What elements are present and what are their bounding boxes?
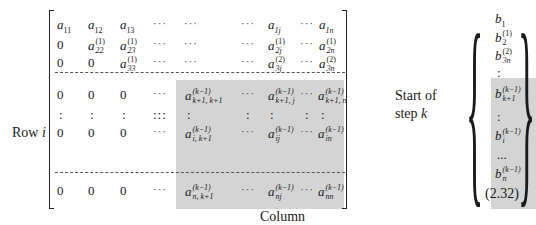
ddots: ::: xyxy=(153,108,167,121)
hdots: ··· xyxy=(241,183,255,196)
vector-entry: b(k−1)i xyxy=(495,128,521,146)
matrix-cell: 0 xyxy=(120,126,127,139)
start-of-text: Start of xyxy=(395,87,437,105)
matrix-cell: a(k−1)k+1, k+1 xyxy=(185,88,222,106)
hdots: ··· xyxy=(153,183,167,196)
hdots: ··· xyxy=(241,87,255,100)
matrix-cell: a(2)3j xyxy=(268,56,285,74)
hdots: ··· xyxy=(153,37,167,50)
matrix-cell: a(k−1)k+1, j xyxy=(268,88,295,106)
vdots: ... xyxy=(497,148,507,161)
row-i-label: Row i xyxy=(12,125,46,141)
matrix-cell: a(k−1)ij xyxy=(268,126,294,144)
matrix-cell: 0 xyxy=(120,184,127,197)
matrix-cell: a12 xyxy=(88,18,103,31)
matrix-cell: 0 xyxy=(57,56,64,69)
matrix-cell: a(k−1)nj xyxy=(268,184,294,202)
matrix-cell: a(k−1)nn xyxy=(318,184,344,202)
partition-line-step-k xyxy=(55,72,345,73)
equation-number: (2.32) xyxy=(485,186,519,202)
matrix-cell: 0 xyxy=(57,184,64,197)
vdots: : xyxy=(497,66,501,79)
hdots: ··· xyxy=(241,125,255,138)
hdots: ··· xyxy=(300,125,314,138)
matrix-cell: a1n xyxy=(319,18,334,31)
matrix-cell: a(k−1)n, k+1 xyxy=(185,184,213,202)
vector-entry: b(1)2 xyxy=(495,30,512,48)
vector-entry: b1 xyxy=(495,12,506,25)
matrix-cell: 0 xyxy=(120,88,127,101)
matrix-cell: a(1)2n xyxy=(319,38,336,56)
vector-entry: b(2)3n xyxy=(495,48,512,66)
matrix-cell: a(k−1)in xyxy=(318,126,344,144)
matrix-cell: a13 xyxy=(120,18,135,31)
vector-entry: b(k−1)k+1 xyxy=(495,86,521,104)
matrix-cell: a(1)23 xyxy=(120,38,137,56)
matrix-cell: a(k−1)k+1, n xyxy=(318,88,346,106)
vdots: : xyxy=(90,108,94,121)
hdots: ··· xyxy=(300,55,314,68)
matrix-cell: a1j xyxy=(268,18,281,31)
matrix-cell: 0 xyxy=(57,38,64,51)
hdots: ··· xyxy=(184,55,198,68)
hdots: ··· xyxy=(241,37,255,50)
matrix-cell: a(k−1)i, k+1 xyxy=(185,126,212,144)
step-k-text: step k xyxy=(395,105,437,123)
left-brace: { xyxy=(466,4,483,214)
matrix-cell: 0 xyxy=(88,56,95,69)
hdots: ··· xyxy=(241,55,255,68)
vector-entry: b(k−1)n xyxy=(495,166,521,184)
vdots: : xyxy=(497,110,501,123)
matrix-cell: 0 xyxy=(88,126,95,139)
vdots: : xyxy=(187,108,191,121)
matrix-cell: 0 xyxy=(88,184,95,197)
hdots: ··· xyxy=(241,17,255,30)
hdots: ··· xyxy=(153,17,167,30)
matrix-cell: a11 xyxy=(57,18,71,31)
hdots: ··· xyxy=(153,125,167,138)
matrix-cell: a(1)22 xyxy=(88,38,105,56)
hdots: ··· xyxy=(184,17,198,30)
vdots: : xyxy=(59,108,63,121)
matrix-cell: 0 xyxy=(88,88,95,101)
matrix-cell: 0 xyxy=(57,88,64,101)
vdots: : xyxy=(321,108,325,121)
vdots: : xyxy=(246,108,250,121)
column-label: Column xyxy=(260,209,305,225)
start-of-step-label: Start of step k xyxy=(395,87,437,123)
right-bracket xyxy=(342,10,347,209)
hdots: ··· xyxy=(300,183,314,196)
hdots: ··· xyxy=(153,87,167,100)
hdots: ··· xyxy=(184,37,198,50)
matrix-cell: a(1)2j xyxy=(268,38,285,56)
hdots: ··· xyxy=(300,87,314,100)
matrix-cell: a(2)3n xyxy=(319,56,336,74)
matrix-cell: 0 xyxy=(57,126,64,139)
vdots: : xyxy=(305,108,309,121)
hdots: ··· xyxy=(153,55,167,68)
vdots: : xyxy=(122,108,126,121)
left-bracket xyxy=(49,10,54,209)
hdots: ··· xyxy=(300,37,314,50)
hdots: ··· xyxy=(300,17,314,30)
partition-line-row-i xyxy=(55,172,345,173)
matrix-cell: a(1)33 xyxy=(120,56,137,74)
vdots: : xyxy=(270,108,274,121)
